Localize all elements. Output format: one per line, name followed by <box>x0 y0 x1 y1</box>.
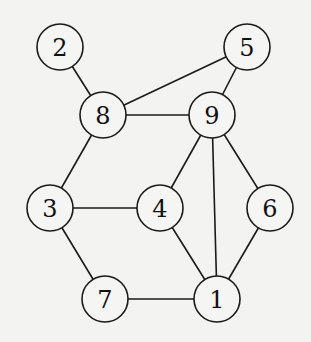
edges <box>50 47 270 299</box>
node-label: 3 <box>42 195 57 223</box>
node-label: 1 <box>209 286 224 314</box>
node-1: 1 <box>194 276 240 322</box>
graph-diagram: 123456789 <box>0 0 311 342</box>
node-2: 2 <box>37 24 83 70</box>
node-label: 5 <box>239 34 254 62</box>
node-label: 4 <box>152 195 167 223</box>
node-label: 2 <box>52 34 67 62</box>
node-3: 3 <box>27 185 73 231</box>
node-label: 7 <box>97 286 112 314</box>
node-8: 8 <box>80 92 126 138</box>
node-9: 9 <box>189 92 235 138</box>
edge-9-1 <box>212 115 217 299</box>
node-4: 4 <box>137 185 183 231</box>
node-5: 5 <box>224 24 270 70</box>
nodes: 123456789 <box>27 24 293 322</box>
node-6: 6 <box>247 185 293 231</box>
node-7: 7 <box>82 276 128 322</box>
node-label: 8 <box>95 102 110 130</box>
node-label: 6 <box>262 195 277 223</box>
node-label: 9 <box>204 102 219 130</box>
